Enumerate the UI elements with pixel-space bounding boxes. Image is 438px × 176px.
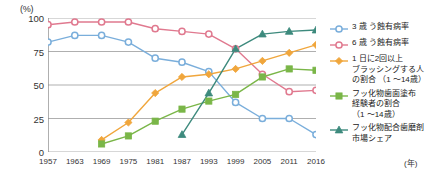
legend-item-label: フッ化物歯面塗布 経験者の割合 （1 〜14歳） <box>352 89 416 121</box>
datapoint <box>205 89 213 96</box>
y-tick-75: 75 <box>16 46 44 57</box>
filled-square-icon <box>330 90 348 102</box>
chart-svg <box>48 18 316 152</box>
y-tick-25: 25 <box>16 113 44 124</box>
datapoint <box>48 22 51 28</box>
datapoint <box>99 32 105 38</box>
datapoint <box>125 39 131 45</box>
datapoint <box>206 31 212 37</box>
legend-item-4[interactable]: フッ化物歯面塗布 経験者の割合 （1 〜14歳） <box>330 89 438 121</box>
datapoint <box>125 133 131 139</box>
legend-item-3[interactable]: 1 日に2回以上 ブラッシングする人 の割合 （1 〜14歳） <box>330 54 438 86</box>
datapoint <box>259 115 265 121</box>
series-line-filled-triangle <box>182 30 316 135</box>
chart-container: (%) 1007550250 1957196319691975198119871… <box>0 0 438 176</box>
datapoint <box>152 55 158 61</box>
datapoint <box>152 118 158 124</box>
plot-area <box>48 18 316 152</box>
legend-item-5[interactable]: フッ化物配合歯磨剤 市場シェア <box>330 123 438 144</box>
legend-item-label: 3 歳 う蝕有病率 <box>352 22 409 33</box>
datapoint <box>179 28 185 34</box>
x-tick-1963: 1963 <box>66 157 84 166</box>
x-tick-1993: 1993 <box>200 157 218 166</box>
datapoint <box>233 99 239 105</box>
chart-legend: 3 歳 う蝕有病率6 歳 う蝕有病率1 日に2回以上 ブラッシングする人 の割合… <box>330 22 438 147</box>
datapoint <box>152 26 158 32</box>
datapoint <box>259 57 266 64</box>
x-tick-1969: 1969 <box>93 157 111 166</box>
y-tick-50: 50 <box>16 80 44 91</box>
datapoint <box>313 67 316 73</box>
filled-diamond-icon <box>330 55 348 67</box>
datapoint <box>99 19 105 25</box>
y-tick-100: 100 <box>16 13 44 24</box>
datapoint <box>286 49 293 56</box>
x-tick-2005: 2005 <box>253 157 271 166</box>
x-tick-1999: 1999 <box>227 157 245 166</box>
legend-item-1[interactable]: 3 歳 う蝕有病率 <box>330 22 438 35</box>
datapoint <box>125 19 131 25</box>
datapoint <box>48 39 51 45</box>
datapoint <box>313 87 316 93</box>
x-tick-2016: 2016 <box>307 157 325 166</box>
datapoint <box>72 19 78 25</box>
filled-triangle-icon <box>330 124 348 136</box>
legend-item-2[interactable]: 6 歳 う蝕有病率 <box>330 38 438 51</box>
x-tick-2011: 2011 <box>281 157 298 166</box>
datapoint <box>312 41 316 48</box>
datapoint <box>179 106 185 112</box>
x-axis-unit-label: (年) <box>404 157 417 168</box>
datapoint <box>232 65 239 72</box>
series-line-filled-square <box>102 69 316 144</box>
datapoint <box>286 115 292 121</box>
open-circle-icon <box>330 23 348 35</box>
x-tick-1987: 1987 <box>173 157 191 166</box>
datapoint <box>179 59 185 65</box>
x-tick-1957: 1957 <box>39 157 57 166</box>
open-circle-icon <box>330 39 348 51</box>
datapoint <box>206 98 212 104</box>
datapoint <box>99 141 105 147</box>
datapoint <box>286 66 292 72</box>
legend-item-label: フッ化物配合歯磨剤 市場シェア <box>352 123 424 144</box>
y-tick-0: 0 <box>16 147 44 158</box>
x-tick-1975: 1975 <box>119 157 137 166</box>
datapoint <box>178 73 185 80</box>
datapoint <box>233 91 239 97</box>
datapoint <box>72 32 78 38</box>
x-tick-1981: 1981 <box>146 157 164 166</box>
datapoint <box>313 131 316 137</box>
datapoint <box>259 74 265 80</box>
datapoint <box>286 89 292 95</box>
legend-item-label: 6 歳 う蝕有病率 <box>352 38 409 49</box>
legend-item-label: 1 日に2回以上 ブラッシングする人 の割合 （1 〜14歳） <box>352 54 426 86</box>
